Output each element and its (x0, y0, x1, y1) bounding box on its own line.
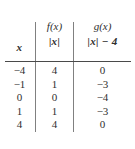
cell-fx: 0 (36, 91, 73, 105)
cell-x: −4 (4, 64, 35, 78)
cell-fx: 4 (36, 64, 73, 78)
cell-gx: −3 (74, 105, 131, 119)
column-header-fx: f(x) |x| (36, 21, 73, 47)
table-row: −1 1 −3 (0, 78, 135, 92)
column-header-gx-name: g(x) (74, 21, 131, 33)
header-rule (5, 61, 131, 62)
cell-x: 0 (4, 91, 35, 105)
cell-fx: 1 (36, 78, 73, 92)
table-row: 1 1 −3 (0, 105, 135, 119)
cell-x: 4 (4, 118, 35, 132)
column-header-x-label: x (4, 42, 35, 54)
table-row: 0 0 −4 (0, 91, 135, 105)
cell-fx: 1 (36, 105, 73, 119)
cell-gx: −3 (74, 78, 131, 92)
table-row: 4 4 0 (0, 118, 135, 132)
table-row: −4 4 0 (0, 64, 135, 78)
cell-fx: 4 (36, 118, 73, 132)
column-header-gx-expression: |x| − 4 (74, 36, 131, 48)
cell-gx: 0 (74, 64, 131, 78)
table-header-row: x f(x) |x| g(x) |x| − 4 (0, 21, 135, 61)
cell-gx: −4 (74, 91, 131, 105)
column-header-gx: g(x) |x| − 4 (74, 21, 131, 47)
column-header-x: x (4, 39, 35, 54)
column-header-fx-name: f(x) (36, 21, 73, 33)
cell-x: 1 (4, 105, 35, 119)
cell-gx: 0 (74, 118, 131, 132)
cell-x: −1 (4, 78, 35, 92)
table-body: −4 4 0 −1 1 −3 0 0 −4 1 1 −3 4 4 0 (0, 64, 135, 132)
function-value-table: x f(x) |x| g(x) |x| − 4 −4 4 0 −1 1 −3 0… (0, 0, 135, 149)
column-header-fx-expression: |x| (36, 36, 73, 48)
